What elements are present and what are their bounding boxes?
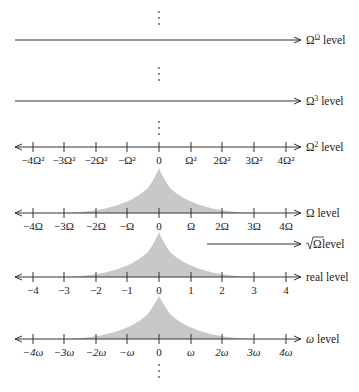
svg-text:2ω: 2ω xyxy=(215,346,229,358)
svg-text:−2Ω: −2Ω xyxy=(86,220,106,232)
level-label: Ω level xyxy=(306,207,340,219)
svg-text:−2Ω²: −2Ω² xyxy=(84,154,108,166)
svg-text:2: 2 xyxy=(219,284,225,296)
level-label: Ω3 level xyxy=(306,94,344,107)
svg-text:−Ω²: −Ω² xyxy=(118,154,136,166)
svg-text:level: level xyxy=(322,238,344,250)
svg-text:−3ω: −3ω xyxy=(54,346,75,358)
level-label: ΩΩ level xyxy=(306,33,345,46)
svg-text:3Ω: 3Ω xyxy=(247,220,261,232)
level-sqrt-omega: Ω level xyxy=(207,237,344,250)
tick-labels: −4 −3 −2 −1 0 1 2 3 4 xyxy=(27,284,289,296)
svg-text:4Ω: 4Ω xyxy=(279,220,293,232)
svg-text:0: 0 xyxy=(156,284,162,296)
svg-text:−4ω: −4ω xyxy=(23,346,44,358)
svg-text:−4Ω²: −4Ω² xyxy=(21,154,45,166)
level-label: Ω2 level xyxy=(306,140,344,153)
tick-labels: −4Ω² −3Ω² −2Ω² −Ω² 0 Ω² 2Ω² 3Ω² 4Ω² xyxy=(21,154,295,166)
svg-text:2Ω: 2Ω xyxy=(215,220,229,232)
level-label: real level xyxy=(306,271,348,283)
svg-text:−4: −4 xyxy=(27,284,39,296)
hyperreal-levels-diagram: ΩΩ level Ω3 level −4Ω² −3Ω² −2Ω² −Ω² 0 Ω… xyxy=(0,0,359,392)
level-label: Ω level xyxy=(306,237,344,250)
tick-labels: −4Ω −3Ω −2Ω −Ω 0 Ω 2Ω 3Ω 4Ω xyxy=(23,220,293,232)
svg-text:−4Ω: −4Ω xyxy=(23,220,43,232)
svg-text:−ω: −ω xyxy=(119,346,134,358)
svg-text:4ω: 4ω xyxy=(279,346,293,358)
ellipsis-top xyxy=(158,11,160,25)
tick-labels: −4ω −3ω −2ω −ω 0 ω 2ω 3ω 4ω xyxy=(23,346,293,358)
svg-text:−2: −2 xyxy=(90,284,102,296)
ellipsis-mid xyxy=(158,67,160,81)
svg-text:0: 0 xyxy=(156,220,162,232)
svg-text:3Ω²: 3Ω² xyxy=(246,154,264,166)
svg-text:0: 0 xyxy=(156,346,162,358)
svg-text:−3: −3 xyxy=(58,284,70,296)
level-omega: −4Ω −3Ω −2Ω −Ω 0 Ω 2Ω 3Ω 4Ω Ω level xyxy=(15,168,340,232)
svg-text:−1: −1 xyxy=(121,284,133,296)
svg-text:Ω: Ω xyxy=(313,238,322,250)
svg-text:3ω: 3ω xyxy=(246,346,261,358)
svg-text:ω: ω xyxy=(187,346,195,358)
level-real: −4 −3 −2 −1 0 1 2 3 4 real level xyxy=(15,232,348,296)
svg-text:4: 4 xyxy=(283,284,289,296)
svg-text:3: 3 xyxy=(251,284,257,296)
level-label: ω level xyxy=(306,333,339,345)
ellipsis-lower xyxy=(158,121,160,135)
svg-text:−2ω: −2ω xyxy=(86,346,107,358)
level-omega-omega: ΩΩ level xyxy=(15,33,345,46)
shaded-peak xyxy=(64,296,254,339)
ellipsis-bottom xyxy=(158,364,160,378)
svg-text:−3Ω: −3Ω xyxy=(54,220,74,232)
svg-text:Ω: Ω xyxy=(187,220,195,232)
level-omega-squared: −4Ω² −3Ω² −2Ω² −Ω² 0 Ω² 2Ω² 3Ω² 4Ω² Ω2 l… xyxy=(15,140,344,166)
level-small-omega: −4ω −3ω −2ω −ω 0 ω 2ω 3ω 4ω ω level xyxy=(15,296,339,358)
svg-text:Ω²: Ω² xyxy=(185,154,197,166)
shaded-peak xyxy=(64,232,254,277)
svg-text:0: 0 xyxy=(156,154,162,166)
svg-text:4Ω²: 4Ω² xyxy=(278,154,296,166)
svg-text:−Ω: −Ω xyxy=(120,220,134,232)
svg-text:−3Ω²: −3Ω² xyxy=(52,154,76,166)
svg-text:2Ω²: 2Ω² xyxy=(214,154,232,166)
svg-text:1: 1 xyxy=(188,284,194,296)
level-omega-cubed: Ω3 level xyxy=(15,94,344,107)
shaded-peak xyxy=(64,168,254,213)
